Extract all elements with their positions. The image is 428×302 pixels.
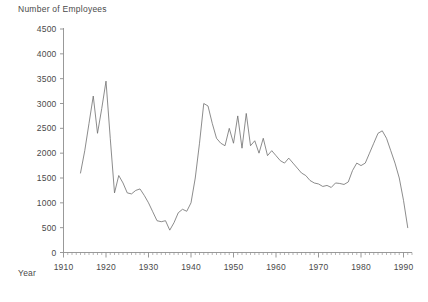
x-tick-label: 1940	[181, 262, 201, 272]
y-tick-label: 3500	[37, 74, 57, 84]
y-tick-label: 1500	[37, 173, 57, 183]
x-axis-title: Year	[18, 268, 36, 278]
x-tick-label: 1920	[96, 262, 116, 272]
y-tick-label: 4000	[37, 49, 57, 59]
x-tick-label: 1990	[394, 262, 414, 272]
y-axis-title: Number of Employees	[18, 4, 107, 14]
employees-series-line	[81, 81, 408, 230]
line-chart-plot: 050010001500200025003000350040004500 191…	[0, 0, 428, 302]
y-tick-label: 500	[42, 223, 57, 233]
x-tick-label: 1910	[54, 262, 74, 272]
x-tick-label: 1970	[309, 262, 329, 272]
y-tick-label: 3000	[37, 99, 57, 109]
x-tick-label: 1960	[266, 262, 286, 272]
x-tick-label: 1980	[351, 262, 371, 272]
y-tick-label: 2500	[37, 123, 57, 133]
x-tick-label: 1950	[224, 262, 244, 272]
y-tick-label: 1000	[37, 198, 57, 208]
y-axis-ticks: 050010001500200025003000350040004500	[37, 24, 64, 258]
chart-figure: Number of Employees Year 050010001500200…	[0, 0, 428, 302]
x-axis-ticks: 191019201930194019501960197019801990	[54, 253, 414, 272]
x-tick-label: 1930	[139, 262, 159, 272]
y-tick-label: 0	[52, 248, 57, 258]
y-tick-label: 2000	[37, 148, 57, 158]
y-tick-label: 4500	[37, 24, 57, 34]
